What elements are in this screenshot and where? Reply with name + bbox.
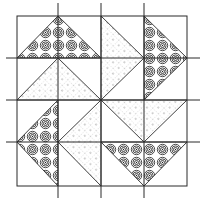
spiral-triangle-left	[17, 100, 58, 186]
dotted-triangle-upper-left	[17, 58, 101, 100]
quilt-block-svg	[0, 0, 207, 200]
dotted-triangle-lower-left	[58, 100, 101, 186]
quilt-diagram	[0, 0, 207, 200]
spiral-triangle-top	[17, 16, 101, 58]
